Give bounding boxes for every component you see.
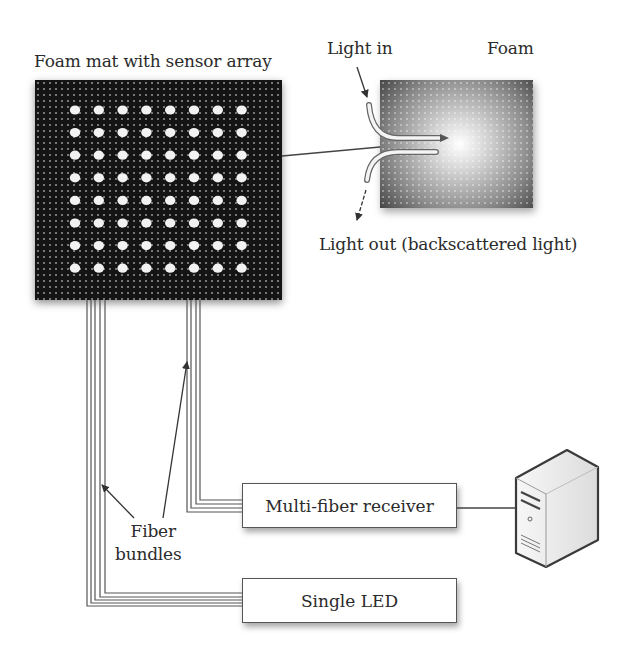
fiber-arrow-right: [163, 362, 187, 518]
y-fiber-probe: [367, 105, 449, 180]
light-out-arrow: [357, 190, 366, 220]
fiber-bundle-receiver: [187, 300, 242, 512]
fiber-bundle-led: [87, 300, 242, 606]
fiber-arrow-left: [102, 485, 134, 518]
mat-to-inset-line: [282, 147, 380, 156]
connections-layer: [0, 0, 632, 666]
computer-tower-icon: [516, 450, 598, 567]
light-in-arrow: [357, 67, 367, 97]
